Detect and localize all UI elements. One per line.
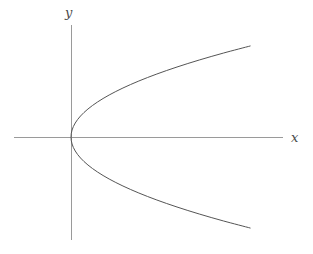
plot-background bbox=[0, 0, 313, 254]
plot-canvas bbox=[0, 0, 313, 254]
parabola-figure: y x bbox=[0, 0, 313, 254]
x-axis-label: x bbox=[291, 131, 298, 144]
y-axis-label: y bbox=[65, 6, 72, 19]
